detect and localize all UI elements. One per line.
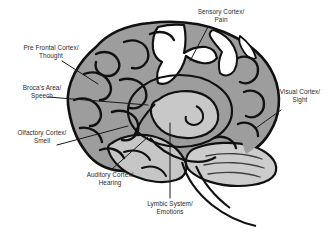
callout-broca-line1: Broca's Area/ [23,84,61,91]
callout-sensory-line2: Pain [178,16,264,24]
callout-prefrontal-line1: Pre Frontal Cortex/ [24,44,79,51]
cerebellum [186,143,276,186]
callout-visual-line2: Sight [268,96,332,104]
lymbic-inner-body [151,91,218,138]
callout-auditory-line2: Hearing [66,179,154,187]
callout-auditory-line1: Auditory Cortex/ [87,171,134,178]
callout-visual-line1: Visual Cortex/ [280,88,320,95]
callout-prefrontal-line2: Thought [8,52,94,60]
callout-sensory-cortex: Sensory Cortex/ Pain [178,8,264,24]
callout-broca-line2: Speech [2,92,82,100]
callout-auditory-cortex: Auditory Cortex/ Hearing [66,171,154,187]
callout-brocas-area: Broca's Area/ Speech [2,84,82,100]
callout-olfactory-cortex: Olfactory Cortex/ Smell [0,129,84,145]
callout-lymbic-system: Lymbic System/ Emotions [128,200,212,216]
callout-olfactory-line1: Olfactory Cortex/ [18,129,67,136]
callout-sensory-line1: Sensory Cortex/ [198,8,245,15]
callout-olfactory-line2: Smell [0,137,84,145]
brain-diagram-page: Sensory Cortex/ Pain Pre Frontal Cortex/… [0,0,332,234]
callout-lymbic-line1: Lymbic System/ [147,200,193,207]
callout-lymbic-line2: Emotions [128,208,212,216]
callout-visual-cortex: Visual Cortex/ Sight [268,88,332,104]
brain-illustration [0,0,332,234]
callout-pre-frontal-cortex: Pre Frontal Cortex/ Thought [8,44,94,60]
